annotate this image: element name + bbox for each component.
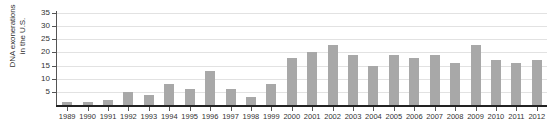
x-axis-tick xyxy=(496,107,497,111)
y-axis-tick xyxy=(52,26,57,27)
x-axis-tick-label: 1989 xyxy=(56,113,78,121)
x-axis-tick xyxy=(231,107,232,111)
y-axis-tick xyxy=(52,79,57,80)
x-axis-tick-label: 2002 xyxy=(322,113,344,121)
bar xyxy=(368,66,378,105)
bar xyxy=(491,60,501,105)
x-axis-line xyxy=(56,105,547,107)
y-axis-tick-labels: 5101520253035 xyxy=(0,0,50,128)
x-axis-tick xyxy=(67,107,68,111)
x-axis-tick-label: 2000 xyxy=(281,113,303,121)
x-axis-tick xyxy=(394,107,395,111)
x-axis-tick-label: 1996 xyxy=(199,113,221,121)
bar xyxy=(348,55,358,105)
x-axis-tick xyxy=(128,107,129,111)
bar xyxy=(103,100,113,105)
bar xyxy=(409,58,419,105)
bar xyxy=(83,102,93,105)
x-axis-tick xyxy=(88,107,89,111)
bar-series xyxy=(57,13,547,105)
x-axis-tick xyxy=(476,107,477,111)
bar xyxy=(185,89,195,105)
bar xyxy=(266,84,276,105)
x-axis-tick-label: 1999 xyxy=(260,113,282,121)
y-axis-tick-label: 20 xyxy=(4,48,50,56)
y-axis-tick xyxy=(52,13,57,14)
x-axis-tick-label: 2008 xyxy=(444,113,466,121)
bar xyxy=(164,84,174,105)
y-axis-tick xyxy=(52,92,57,93)
y-axis-tick-label: 10 xyxy=(4,75,50,83)
x-axis-tick xyxy=(210,107,211,111)
bar xyxy=(430,55,440,105)
bar xyxy=(307,52,317,105)
x-axis-tick-label: 1993 xyxy=(138,113,160,121)
x-axis-tick-label: 1991 xyxy=(97,113,119,121)
x-axis-tick xyxy=(373,107,374,111)
x-axis-tick xyxy=(435,107,436,111)
bar xyxy=(389,55,399,105)
x-axis-tick-label: 2005 xyxy=(383,113,405,121)
bar xyxy=(123,92,133,105)
x-axis-tick xyxy=(537,107,538,111)
x-axis-tick xyxy=(312,107,313,111)
x-axis-tick-label: 2007 xyxy=(424,113,446,121)
x-axis-tick-label: 2004 xyxy=(362,113,384,121)
x-axis-tick-label: 2011 xyxy=(505,113,527,121)
x-axis-tick-label: 1992 xyxy=(117,113,139,121)
x-axis-tick xyxy=(251,107,252,111)
x-axis-tick-label: 1995 xyxy=(179,113,201,121)
bar xyxy=(226,89,236,105)
bar xyxy=(450,63,460,105)
x-axis-tick xyxy=(353,107,354,111)
bar xyxy=(62,102,72,105)
y-axis-tick xyxy=(52,39,57,40)
x-axis-tick xyxy=(149,107,150,111)
x-axis-tick-label: 1997 xyxy=(220,113,242,121)
bar xyxy=(511,63,521,105)
bar xyxy=(532,60,542,105)
y-axis-tick-label: 15 xyxy=(4,62,50,70)
y-axis-tick-label: 35 xyxy=(4,9,50,17)
x-axis-tick-label: 1998 xyxy=(240,113,262,121)
bar xyxy=(471,45,481,105)
y-axis-tick xyxy=(52,52,57,53)
x-axis-tick xyxy=(271,107,272,111)
x-axis-tick-label: 2001 xyxy=(301,113,323,121)
x-axis-tick-label: 2012 xyxy=(526,113,548,121)
y-axis-tick xyxy=(52,66,57,67)
x-axis-tick xyxy=(516,107,517,111)
x-axis-tick-label: 1994 xyxy=(158,113,180,121)
bar xyxy=(205,71,215,105)
x-axis-tick-label: 2006 xyxy=(403,113,425,121)
bar xyxy=(328,45,338,105)
x-axis-tick-label: 1990 xyxy=(77,113,99,121)
x-axis-tick-label: 2010 xyxy=(485,113,507,121)
x-axis-tick xyxy=(169,107,170,111)
x-axis-tick-label: 2003 xyxy=(342,113,364,121)
x-axis-tick xyxy=(333,107,334,111)
x-axis-tick xyxy=(108,107,109,111)
bar xyxy=(144,95,154,106)
x-axis-tick xyxy=(292,107,293,111)
x-axis-tick-label: 2009 xyxy=(465,113,487,121)
y-axis-tick-label: 25 xyxy=(4,35,50,43)
bar xyxy=(287,58,297,105)
x-axis-tick xyxy=(414,107,415,111)
bar xyxy=(246,97,256,105)
y-axis-tick-label: 5 xyxy=(4,88,50,96)
x-axis-tick xyxy=(455,107,456,111)
y-axis-tick-label: 30 xyxy=(4,22,50,30)
dna-exonerations-bar-chart: DNA exonerations in the U.S. 51015202530… xyxy=(0,0,557,128)
x-axis-tick xyxy=(190,107,191,111)
